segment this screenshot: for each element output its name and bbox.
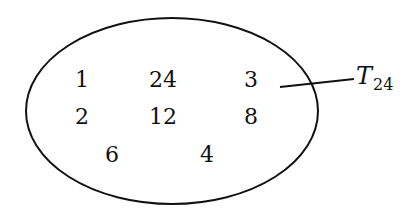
set-element: 1: [75, 69, 89, 91]
set-subscript: 24: [373, 75, 393, 94]
set-element: 4: [200, 144, 214, 166]
set-element: 3: [244, 69, 258, 91]
set-element: 2: [75, 106, 89, 128]
set-element: 8: [244, 106, 258, 128]
set-element: 24: [149, 69, 177, 91]
set-symbol: T: [356, 62, 372, 90]
set-element: 6: [105, 144, 119, 166]
label-pointer-line: [280, 79, 354, 87]
set-label: T24: [356, 64, 393, 93]
set-element: 12: [149, 106, 177, 128]
set-diagram: [0, 0, 415, 215]
